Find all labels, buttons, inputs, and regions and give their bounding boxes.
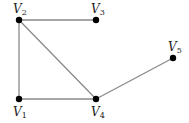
edge-v2-v4 <box>19 20 96 99</box>
nodes-group <box>16 17 176 102</box>
node-label-v2: V2 <box>13 2 27 17</box>
node-v2 <box>16 17 22 23</box>
node-v5 <box>170 55 176 61</box>
node-v4 <box>93 96 99 102</box>
edges-group <box>19 20 173 99</box>
node-v3 <box>93 17 99 23</box>
node-label-v5: V5 <box>168 40 182 55</box>
edge-v4-v5 <box>96 58 173 99</box>
graph-diagram: V1V2V3V4V5 <box>0 0 189 123</box>
node-label-v3: V3 <box>91 2 105 17</box>
node-v1 <box>16 96 22 102</box>
node-label-v1: V1 <box>13 105 27 120</box>
node-label-v4: V4 <box>91 105 105 120</box>
